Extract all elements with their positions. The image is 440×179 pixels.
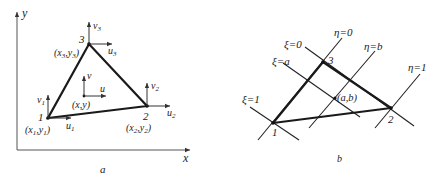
interior-point-label: (x,y) bbox=[72, 99, 91, 111]
v3-label: v3 bbox=[93, 20, 101, 33]
figure-a: y x v3 u3 3 (x3,y3) v1 u1 1 (x1,y1) v2 u… bbox=[17, 6, 190, 175]
xi-0-label: ξ=0 bbox=[284, 38, 302, 51]
eta-b-label: η=b bbox=[364, 40, 383, 52]
xi-a-label: ξ=a bbox=[272, 55, 290, 68]
node-2-coords: (x2,y2) bbox=[126, 122, 152, 135]
figure-b: 1 2 3 (a,b) ξ=0 ξ=a ξ=1 η=0 η=b η=1 b bbox=[242, 26, 426, 164]
eta-1-label: η=1 bbox=[408, 61, 426, 73]
caption-b: b bbox=[337, 153, 342, 164]
node-2-label: 2 bbox=[143, 110, 149, 122]
node-1-label: 1 bbox=[38, 111, 44, 123]
u3-label: u3 bbox=[108, 45, 117, 58]
node-3-coords: (x3,y3) bbox=[54, 47, 80, 60]
u2-label: u2 bbox=[167, 107, 176, 120]
xi-a-line bbox=[283, 63, 360, 117]
v2-label: v2 bbox=[151, 80, 159, 93]
eta-0-label: η=0 bbox=[334, 26, 353, 38]
node-1-dot bbox=[271, 121, 275, 125]
node-2-label: 2 bbox=[388, 113, 394, 125]
v-label: v bbox=[87, 70, 92, 81]
u1-label: u1 bbox=[66, 120, 75, 133]
caption-a: a bbox=[100, 163, 106, 175]
x-axis-label: x bbox=[182, 151, 189, 165]
node-3-dot bbox=[321, 60, 325, 64]
node-1-label: 1 bbox=[272, 126, 278, 138]
node-3-label: 3 bbox=[78, 33, 85, 45]
v1-label: v1 bbox=[37, 94, 45, 107]
interior-point-label: (a,b) bbox=[337, 92, 358, 104]
edge-1-3 bbox=[273, 62, 323, 123]
node-1-coords: (x1,y1) bbox=[25, 124, 51, 137]
edge-1-2 bbox=[273, 108, 391, 123]
node-2-dot bbox=[389, 106, 393, 110]
y-axis-label: y bbox=[21, 6, 28, 20]
xi-1-label: ξ=1 bbox=[242, 93, 260, 106]
node-3-label: 3 bbox=[327, 54, 334, 66]
u-label: u bbox=[100, 83, 105, 94]
diagram-canvas: y x v3 u3 3 (x3,y3) v1 u1 1 (x1,y1) v2 u… bbox=[0, 0, 440, 179]
